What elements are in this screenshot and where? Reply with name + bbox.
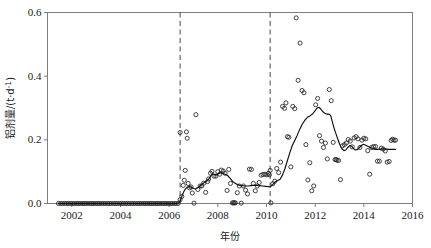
x-tick-label: 2010 [256, 209, 279, 221]
y-tick-label: 0.0 [28, 197, 42, 209]
x-tick-label: 2004 [110, 209, 133, 221]
x-tick-label: 2012 [304, 209, 326, 221]
x-tick-label: 2014 [353, 209, 376, 221]
y-axis-title-main: 铝剂量/(t·d [4, 88, 16, 139]
x-tick-label: 2008 [207, 209, 230, 221]
y-tick-label: 0.6 [28, 6, 42, 18]
y-tick-label: 0.2 [28, 133, 42, 145]
y-axis-title-tail: ) [5, 77, 16, 81]
chart-figure: 0.00.20.40.6 200220042006200820102012201… [0, 0, 431, 248]
x-tick-label: 2002 [61, 209, 83, 221]
x-tick-label: 2006 [158, 209, 181, 221]
y-tick-label: 0.4 [28, 70, 42, 82]
x-tick-label: 2016 [402, 209, 425, 221]
x-axis-title: 年份 [220, 230, 240, 242]
aluminum-dosage-timeseries-chart: 0.00.20.40.6 200220042006200820102012201… [0, 0, 431, 248]
